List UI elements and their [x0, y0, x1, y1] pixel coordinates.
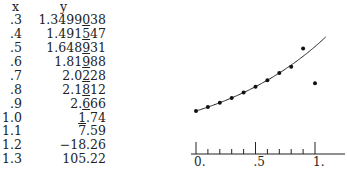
data-point: [289, 65, 293, 69]
data-point: [301, 46, 305, 50]
data-point: [206, 105, 210, 109]
data-point: [242, 91, 246, 95]
data-point: [254, 85, 258, 89]
data-point: [313, 81, 317, 85]
data-point: [265, 78, 269, 82]
data-points: [194, 46, 317, 113]
exact-curve: [196, 37, 326, 111]
data-point: [230, 96, 234, 100]
x-tick-label: 1.: [313, 155, 324, 169]
data-point: [194, 109, 198, 113]
x-axis: 0..51.: [191, 142, 345, 169]
x-tick-label: .5: [254, 155, 265, 169]
approximation-chart: 0..51.: [0, 0, 347, 173]
x-tick-label: 0.: [194, 155, 205, 169]
data-point: [218, 101, 222, 105]
data-point: [277, 71, 281, 75]
